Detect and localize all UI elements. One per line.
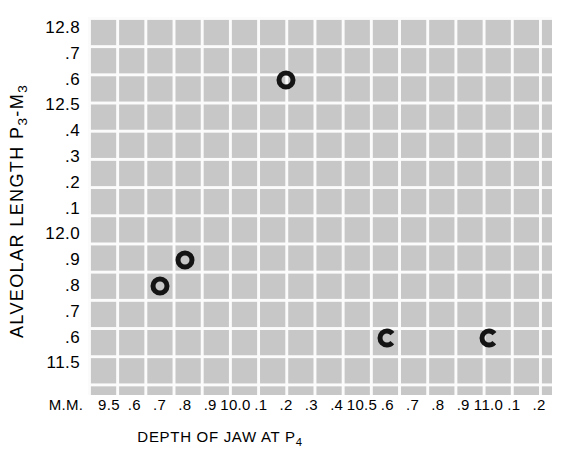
open-circle-marker [172,247,198,273]
x-tick-label: .9 [457,396,470,413]
x-axis-title: DEPTH OF JAW AT P4 [137,428,302,445]
axis-title-subscript: 4 [296,436,303,448]
x-tick-label: .2 [280,396,293,413]
x-tick-label: 11.0 [474,396,503,413]
scatter-plot-figure: ALVEOLAR LENGTH P3-M3 12.8.7.612.5.4.3.2… [0,0,563,474]
y-tick-label: 12.8 [2,18,80,38]
x-tick-label: 10.0 [220,396,250,413]
x-tick-label: .7 [153,396,166,413]
x-unit-label: M.M. [49,396,84,413]
y-tick-label: 12.0 [2,224,80,244]
x-tick-label: .1 [254,396,267,413]
y-tick-label: .6 [2,69,80,89]
y-tick-label: .8 [2,276,80,296]
x-tick-label: 9.5 [98,396,120,413]
open-circle-marker [147,273,173,299]
y-tick-label: .2 [2,172,80,192]
open-circle-marker [273,67,299,93]
x-tick-label: .9 [204,396,217,413]
x-tick-label: .8 [431,396,444,413]
y-tick-label: 12.5 [2,95,80,115]
x-tick-label: .8 [178,396,191,413]
x-tick-label: 10.5 [347,396,377,413]
y-tick-label: .3 [2,147,80,167]
x-tick-label: .1 [507,396,520,413]
axis-title-text: DEPTH OF JAW AT P [137,428,295,445]
x-tick-label: .2 [533,396,546,413]
x-tick-label: .3 [305,396,318,413]
y-tick-label: .9 [2,250,80,270]
y-tick-label: .6 [2,327,80,347]
c-shape-marker [374,325,400,351]
x-tick-label: .4 [330,396,343,413]
y-tick-label: .7 [2,43,80,63]
y-tick-label: .4 [2,121,80,141]
x-tick-label: .7 [406,396,419,413]
y-tick-label: .1 [2,198,80,218]
x-tick-label: .6 [381,396,394,413]
y-tick-label: 11.5 [2,353,80,373]
x-tick-label: .6 [128,396,141,413]
c-shape-marker [476,325,502,351]
y-tick-label: .7 [2,301,80,321]
